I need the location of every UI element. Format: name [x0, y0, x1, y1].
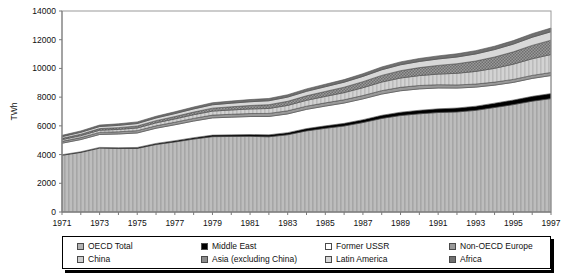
legend-label-china: China — [88, 254, 110, 265]
y-axis-tick-label: 6000 — [37, 121, 56, 131]
legend-swatch-middle-east — [201, 243, 208, 250]
legend-label-non-oecd-europe: Non-OECD Europe — [460, 241, 533, 252]
x-axis-tick-label: 1981 — [241, 218, 260, 228]
legend-row: China Asia (excluding China) Latin Ameri… — [77, 253, 550, 266]
y-axis-tick-label: 14000 — [32, 6, 56, 16]
x-axis-tick-label: 1979 — [203, 218, 222, 228]
x-axis-tick-label: 1975 — [128, 218, 147, 228]
legend-item-latin-america[interactable]: Latin America — [325, 254, 449, 265]
y-axis-tick-label: 10000 — [32, 63, 56, 73]
y-axis-tick-label: 0 — [51, 207, 56, 217]
legend-drop-shadow-right — [551, 239, 554, 273]
x-axis-tick-label: 1987 — [353, 218, 372, 228]
legend-item-china[interactable]: China — [77, 254, 201, 265]
stacked-area-chart: 0200040006000800010000120001400019711973… — [0, 0, 579, 230]
legend-item-africa[interactable]: Africa — [449, 254, 579, 265]
y-axis-tick-label: 4000 — [37, 150, 56, 160]
chart-svg: 0200040006000800010000120001400019711973… — [0, 0, 579, 230]
x-axis-tick-label: 1997 — [542, 218, 561, 228]
legend-row: OECD Total Middle East Former USSR Non-O… — [77, 240, 550, 253]
legend-swatch-latin-america — [325, 256, 332, 263]
legend-label-middle-east: Middle East — [212, 241, 256, 252]
x-axis-tick-label: 1983 — [278, 218, 297, 228]
legend-drop-shadow — [65, 270, 554, 273]
legend-item-middle-east[interactable]: Middle East — [201, 241, 325, 252]
chart-screenshot: 0200040006000800010000120001400019711973… — [0, 0, 579, 276]
x-axis-tick-label: 1991 — [429, 218, 448, 228]
legend-item-non-oecd-europe[interactable]: Non-OECD Europe — [449, 241, 579, 252]
chart-legend: OECD Total Middle East Former USSR Non-O… — [62, 236, 551, 269]
legend-swatch-asia-excluding-china — [201, 256, 208, 263]
x-axis-tick-label: 1973 — [90, 218, 109, 228]
legend-swatch-former-ussr — [325, 243, 332, 250]
x-axis-tick-label: 1995 — [504, 218, 523, 228]
legend-label-asia-excluding-china: Asia (excluding China) — [212, 254, 297, 265]
legend-label-oecd-total: OECD Total — [88, 241, 133, 252]
legend-item-former-ussr[interactable]: Former USSR — [325, 241, 449, 252]
x-axis-tick-label: 1993 — [466, 218, 485, 228]
legend-swatch-non-oecd-europe — [449, 243, 456, 250]
legend-label-latin-america: Latin America — [336, 254, 388, 265]
x-axis-tick-label: 1989 — [391, 218, 410, 228]
legend-label-former-ussr: Former USSR — [336, 241, 389, 252]
x-axis-tick-label: 1977 — [165, 218, 184, 228]
y-axis-tick-label: 2000 — [37, 178, 56, 188]
legend-label-africa: Africa — [460, 254, 482, 265]
legend-item-asia-excluding-china[interactable]: Asia (excluding China) — [201, 254, 325, 265]
legend-swatch-oecd-total — [77, 243, 84, 250]
x-axis-tick-label: 1971 — [53, 218, 72, 228]
legend-swatch-africa — [449, 256, 456, 263]
legend-swatch-china — [77, 256, 84, 263]
y-axis-tick-label: 8000 — [37, 92, 56, 102]
y-axis-title: TWh — [9, 102, 19, 120]
x-axis-tick-label: 1985 — [316, 218, 335, 228]
y-axis-tick-label: 12000 — [32, 35, 56, 45]
legend-item-oecd-total[interactable]: OECD Total — [77, 241, 201, 252]
